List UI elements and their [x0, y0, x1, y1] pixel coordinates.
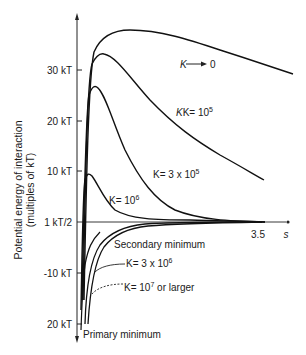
label-k-3e5: K= 3 x 105 — [153, 168, 200, 180]
svg-text:(multiples of kT): (multiples of kT) — [24, 153, 36, 228]
label-primary-minimum: Primary minimum — [83, 329, 161, 340]
dlvo-potential-chart: 30 kT 20 kT 10 kT 1 kT/2 -10 kT 20 kT Po… — [0, 0, 306, 355]
label-k-1e5: KK= 105 — [176, 106, 213, 118]
y-axis-arrow-up-icon — [75, 13, 79, 20]
label-secondary-minimum: Secondary minimum — [114, 239, 205, 250]
curve-k-0 — [84, 30, 293, 300]
y-tick-half-kt: 1 kT/2 — [44, 217, 72, 228]
label-k-1e7: K= 107 or larger — [124, 281, 195, 293]
y-tick-20kt: 20 kT — [47, 116, 72, 127]
label-k-1e6: K= 106 — [109, 194, 139, 206]
y-tick-30kt: 30 kT — [47, 65, 72, 76]
svg-text:Potential energy of interactio: Potential energy of interaction — [12, 120, 24, 259]
y-tick-10kt: 10 kT — [47, 166, 72, 177]
label-k-0-value: 0 — [210, 59, 216, 70]
x-axis-end-dot-icon — [286, 220, 289, 223]
y-axis-arrow-down-icon — [75, 336, 79, 343]
annotations: K 0 KK= 105 K= 3 x 105 K= 106 Secondary … — [83, 59, 216, 340]
curve-k-3e6-outer — [88, 222, 262, 324]
y-axis-title: Potential energy of interaction (multipl… — [12, 120, 36, 259]
x-axis-label-s: s — [284, 229, 289, 240]
curve-k-3e5 — [82, 86, 265, 300]
y-tick-minus10kt: -10 kT — [44, 268, 72, 279]
y-tick-labels: 30 kT 20 kT 10 kT 1 kT/2 -10 kT 20 kT — [44, 65, 73, 330]
y-tick-minus20kt: 20 kT — [47, 319, 72, 330]
curve-k-3e6 — [85, 222, 262, 324]
label-k-3e6: K= 3 x 106 — [126, 257, 173, 269]
x-tick-3-5: 3.5 — [251, 229, 265, 240]
arrow-right-icon — [201, 62, 207, 67]
